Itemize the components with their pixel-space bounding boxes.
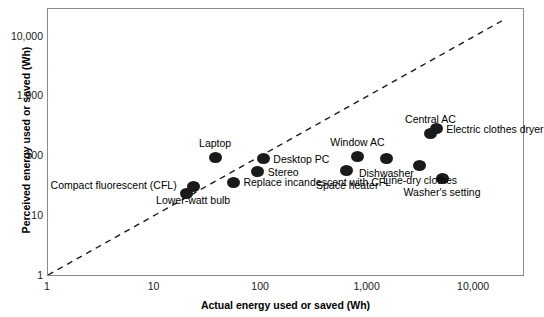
identity-reference-line [48, 9, 523, 275]
x-tick-label: 1,000 [353, 281, 379, 292]
data-point-label: Lower-watt bulb [156, 194, 230, 206]
x-axis-title: Actual energy used or saved (Wh) [47, 299, 524, 311]
data-point-label: Electric clothes dryer [446, 123, 543, 135]
data-point[interactable] [227, 177, 240, 188]
data-point[interactable] [187, 181, 200, 192]
data-point-label: Space heater [316, 179, 378, 191]
y-tick-label: 1 [37, 270, 43, 281]
y-axis-title: Perceived energy used or saved (Wh) [20, 10, 32, 270]
data-point-label: Window AC [330, 136, 384, 148]
x-tick-label: 100 [251, 281, 269, 292]
data-point[interactable] [380, 153, 393, 164]
data-point[interactable] [340, 165, 353, 176]
x-tick-label: 10,000 [457, 281, 489, 292]
x-axis-ticks: 1101001,00010,000 [0, 281, 532, 295]
data-point-label: Line-dry clothes [383, 174, 457, 186]
plot-area: Compact fluorescent (CFL)Lower-watt bulb… [47, 8, 524, 276]
data-point-label: Compact fluorescent (CFL) [51, 179, 177, 191]
data-point[interactable] [209, 152, 222, 163]
data-point-label: Desktop PC [273, 153, 329, 165]
data-point[interactable] [351, 151, 364, 162]
x-tick-label: 10 [148, 281, 160, 292]
data-point[interactable] [257, 153, 270, 164]
data-point-label: Washer's setting [404, 186, 481, 198]
y-tick-label: 10 [31, 210, 43, 221]
x-tick-label: 1 [44, 281, 50, 292]
data-point-label: Laptop [199, 137, 231, 149]
data-point[interactable] [413, 160, 426, 171]
data-point-label: Stereo [268, 166, 299, 178]
